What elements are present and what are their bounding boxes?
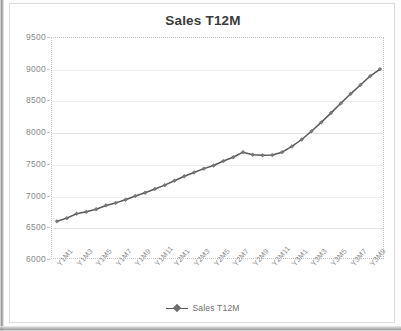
data-point-marker [261, 153, 265, 157]
legend-line-marker-icon [166, 304, 188, 313]
y-tick-label-9500: 9500 [26, 32, 46, 42]
legend-label: Sales T12M [192, 303, 239, 313]
chart-title: Sales T12M [10, 13, 396, 28]
data-point-marker [104, 204, 108, 208]
data-point-marker [94, 207, 98, 211]
data-point-marker [202, 167, 206, 171]
y-tick-mark [47, 259, 50, 260]
data-point-marker [114, 201, 118, 205]
y-tick-label-8500: 8500 [26, 95, 46, 105]
data-point-marker [251, 153, 255, 157]
x-axis: Y1M1Y1M3Y1M5Y1M7Y1M9Y1M11Y2M1Y2M3Y2M5Y2M… [51, 260, 384, 304]
data-point-marker [143, 191, 147, 195]
y-tick-mark [47, 132, 50, 133]
data-point-marker [84, 210, 88, 214]
plot-area-frame [51, 37, 384, 259]
y-tick-mark [47, 196, 50, 197]
data-point-marker [270, 153, 274, 157]
y-tick-label-6000: 6000 [26, 254, 46, 264]
chart-legend: Sales T12M [10, 303, 396, 313]
data-point-marker [192, 171, 196, 175]
y-tick-label-7500: 7500 [26, 159, 46, 169]
page-bottom-edge [0, 326, 401, 331]
scanned-page-frame: Sales T12M 95009000850080007500700065006… [0, 0, 401, 331]
y-tick-mark [47, 69, 50, 70]
series-line [57, 69, 380, 221]
y-tick-label-7000: 7000 [26, 191, 46, 201]
y-tick-label-8000: 8000 [26, 127, 46, 137]
y-tick-mark [47, 227, 50, 228]
data-point-marker [133, 194, 137, 198]
page-left-edge [0, 0, 4, 331]
y-axis: 95009000850080007500700065006000 [10, 37, 50, 259]
data-point-marker [55, 219, 59, 223]
chart-container: Sales T12M 95009000850080007500700065006… [9, 3, 395, 323]
y-tick-mark [47, 37, 50, 38]
y-tick-mark [47, 164, 50, 165]
series-sales-t12m [52, 38, 385, 260]
y-tick-mark [47, 100, 50, 101]
data-point-marker [153, 187, 157, 191]
y-tick-label-9000: 9000 [26, 64, 46, 74]
y-tick-label-6500: 6500 [26, 222, 46, 232]
plot-area [52, 38, 383, 258]
data-point-marker [124, 198, 128, 202]
